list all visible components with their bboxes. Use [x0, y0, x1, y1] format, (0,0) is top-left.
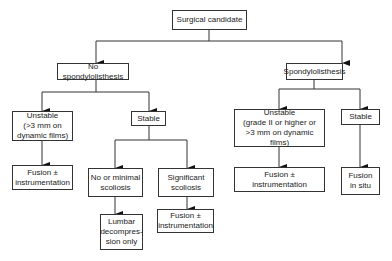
- node-significant-scoliosis: Significant scoliosis: [158, 168, 214, 197]
- node-minimal-scoliosis: No or minimal scoliosis: [88, 168, 143, 197]
- node-spondylolisthesis: Spondylolisthesis: [286, 63, 343, 80]
- node-left-fusion: Fusion ± instrumentation: [12, 165, 73, 190]
- node-surgical-candidate: Surgical candidate: [172, 10, 247, 30]
- node-right-stable: Stable: [341, 109, 380, 125]
- node-right-fusion: Fusion ± instrumentation: [234, 167, 325, 192]
- node-no-spondylolisthesis: No spondylolisthesis: [57, 63, 129, 80]
- node-lumbar-decompression: Lumbar decompres- sion only: [100, 214, 143, 250]
- node-right-unstable: Unstable (grade II or higher or >3 mm on…: [234, 109, 325, 147]
- node-left-stable: Stable: [131, 111, 166, 126]
- node-fusion-in-situ: Fusion in situ: [341, 167, 380, 195]
- node-mid-fusion: Fusion ± instrumentation: [157, 209, 214, 233]
- node-left-unstable: Unstable (>3 mm on dynamic films): [12, 111, 73, 141]
